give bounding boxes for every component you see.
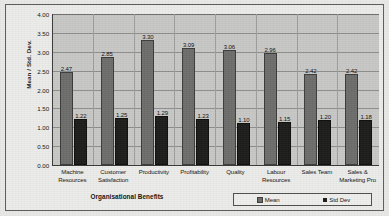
bar-value-label: 1.10: [238, 117, 249, 123]
x-axis-tick-label: MachineResources: [52, 168, 93, 185]
y-axis-tick-labels: 4.003.503.002.502.001.501.000.500.00: [22, 14, 49, 165]
bar-value-label: 3.06: [224, 44, 235, 50]
legend-label: Std Dev: [329, 197, 350, 203]
x-axis-tick-label-line: Quality: [216, 168, 255, 176]
y-axis-tick-label: 4.00: [22, 11, 49, 18]
chart-figure: Mean / Std. Dev. 4.003.503.002.502.001.5…: [0, 0, 389, 216]
bar-group: 2.421.20: [298, 14, 339, 165]
legend-swatch-icon: [323, 198, 327, 202]
y-axis-tick-label: 0.50: [22, 143, 49, 150]
bar-mean: 3.06: [223, 50, 236, 166]
bar-value-label: 1.22: [75, 113, 86, 119]
chart-plot-frame: Mean / Std. Dev. 4.003.503.002.502.001.5…: [5, 4, 384, 211]
y-axis-tick-label: 1.50: [22, 105, 49, 112]
bar-value-label: 2.42: [346, 68, 357, 74]
x-axis-tick-label-line: Resources: [53, 176, 92, 184]
bar-std-dev: 1.15: [278, 122, 291, 165]
x-axis-tick-label-line: Satisfaction: [94, 176, 133, 184]
chart-legend: MeanStd Dev: [233, 193, 372, 206]
x-axis-tick-label-line: Profitability: [175, 168, 214, 176]
y-axis-tick-label: 3.50: [22, 29, 49, 36]
bar-value-label: 1.25: [116, 112, 127, 118]
bar-mean: 2.96: [264, 53, 277, 165]
bar-group: 2.421.18: [338, 14, 379, 165]
bar-value-label: 1.29: [157, 110, 168, 116]
bar-value-label: 1.15: [279, 116, 290, 122]
x-axis-tick-label: Profitability: [174, 168, 215, 185]
bar-std-dev: 1.10: [237, 123, 250, 165]
y-axis-tick-label: 3.00: [22, 48, 49, 55]
bar-value-label: 2.85: [102, 51, 113, 57]
x-axis-tick-label-line: Machine: [53, 168, 92, 176]
bar-value-label: 3.30: [142, 34, 153, 40]
bar-mean: 3.30: [141, 40, 154, 165]
bar-value-label: 2.42: [305, 68, 316, 74]
x-axis-tick-label: Quality: [215, 168, 256, 185]
bars-layer: 2.471.222.851.253.301.293.091.233.061.10…: [53, 14, 379, 165]
x-axis-tick-label-line: Sales Team: [298, 168, 337, 176]
bar-std-dev: 1.25: [115, 118, 128, 165]
bar-mean: 2.47: [60, 72, 73, 165]
bar-std-dev: 1.23: [196, 119, 209, 165]
x-axis-tick-label-line: Labour: [257, 168, 296, 176]
bar-value-label: 3.09: [183, 42, 194, 48]
x-axis-tick-label-line: Customer: [94, 168, 133, 176]
legend-swatch-icon: [257, 197, 263, 203]
legend-entry[interactable]: Mean: [234, 197, 303, 203]
bar-value-label: 2.47: [61, 66, 72, 72]
x-axis-tick-label: CustomerSatisfaction: [93, 168, 134, 185]
bar-value-label: 2.96: [265, 47, 276, 53]
x-axis-tick-label: Productivity: [134, 168, 175, 185]
bar-group: 3.061.10: [216, 14, 257, 165]
y-axis-tick-label: 2.50: [22, 67, 49, 74]
bar-mean: 2.42: [345, 74, 358, 165]
y-axis-tick-label: 2.00: [22, 86, 49, 93]
bar-group: 3.301.29: [135, 14, 176, 165]
x-axis-tick-label: Sales Team: [297, 168, 338, 185]
bar-value-label: 1.18: [361, 114, 372, 120]
x-axis-tick-label-line: Marketing Pro: [338, 176, 377, 184]
bar-value-label: 1.20: [320, 114, 331, 120]
legend-entry[interactable]: Std Dev: [303, 197, 372, 203]
legend-label: Mean: [265, 197, 280, 203]
bar-group: 2.471.22: [53, 14, 94, 165]
x-axis-title: Organisational Benefits: [52, 193, 202, 200]
bar-std-dev: 1.22: [74, 119, 87, 165]
bar-mean: 2.85: [101, 57, 114, 165]
x-axis-tick-label: LabourResources: [256, 168, 297, 185]
bar-mean: 2.42: [304, 74, 317, 165]
y-axis-tick-label: 0.00: [22, 162, 49, 169]
bar-group: 2.961.15: [257, 14, 298, 165]
plot-area: 2.471.222.851.253.301.293.091.233.061.10…: [52, 14, 379, 166]
bar-mean: 3.09: [182, 48, 195, 165]
x-axis-tick-label-line: Resources: [257, 176, 296, 184]
bar-std-dev: 1.29: [155, 116, 168, 165]
x-axis-tick-label: Sales &Marketing Pro: [337, 168, 378, 185]
y-axis-tick-label: 1.00: [22, 124, 49, 131]
x-axis-tick-label-line: Productivity: [135, 168, 174, 176]
bar-std-dev: 1.18: [359, 120, 372, 165]
bar-std-dev: 1.20: [318, 120, 331, 165]
x-axis-tick-labels: MachineResourcesCustomerSatisfactionProd…: [52, 168, 378, 185]
bar-value-label: 1.23: [198, 113, 209, 119]
x-axis-tick-label-line: Sales &: [338, 168, 377, 176]
bar-group: 3.091.23: [175, 14, 216, 165]
bar-group: 2.851.25: [94, 14, 135, 165]
